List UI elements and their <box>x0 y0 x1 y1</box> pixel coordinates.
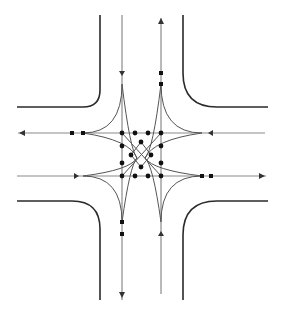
top-right-curb <box>183 15 268 107</box>
node <box>120 232 124 236</box>
node <box>120 144 125 149</box>
curbs <box>17 15 268 300</box>
lanes <box>17 15 266 300</box>
arrow-down-icon <box>119 292 125 298</box>
node <box>129 153 134 158</box>
node <box>200 174 204 178</box>
center-diamond <box>122 133 161 176</box>
node <box>146 174 151 179</box>
node <box>133 131 138 136</box>
arrow-left-icon <box>19 130 25 136</box>
node <box>159 82 163 86</box>
node <box>209 174 213 178</box>
arrow-up-icon <box>158 231 164 236</box>
node <box>146 131 151 136</box>
node <box>120 161 125 166</box>
top-left-curb <box>17 15 100 107</box>
arrowheads <box>19 18 265 298</box>
node <box>149 153 154 158</box>
arrow-left-icon <box>74 173 79 179</box>
node <box>120 174 125 179</box>
node <box>70 131 74 135</box>
arrow-left-icon <box>208 130 213 136</box>
node <box>139 165 144 170</box>
node <box>120 220 124 224</box>
node <box>159 71 163 75</box>
node <box>159 131 164 136</box>
intersection-diagram <box>0 0 282 317</box>
node <box>81 131 85 135</box>
conflict-nodes <box>70 71 213 236</box>
node <box>133 174 138 179</box>
node <box>159 144 164 149</box>
bottom-right-curb <box>183 201 268 300</box>
arrow-up-icon <box>158 18 164 24</box>
node <box>159 161 164 166</box>
node <box>159 174 164 179</box>
node <box>139 140 144 145</box>
node <box>120 131 125 136</box>
arrow-right-icon <box>259 173 265 179</box>
bottom-left-curb <box>17 201 100 300</box>
arrow-down-icon <box>119 71 125 76</box>
